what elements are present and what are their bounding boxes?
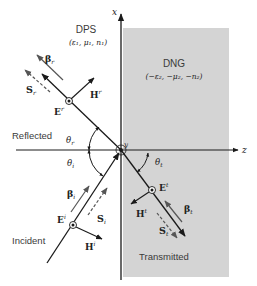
e-i-label: Ei bbox=[57, 213, 66, 225]
s-i-arrow bbox=[88, 188, 107, 215]
beta-r-label: βr bbox=[45, 53, 55, 65]
z-axis-label: z bbox=[241, 145, 247, 155]
beta-i-label: βi bbox=[67, 188, 75, 200]
e-r-dot bbox=[68, 100, 71, 103]
h-r-label: Hr bbox=[90, 88, 103, 100]
x-axis-label: x bbox=[112, 7, 117, 17]
e-i-dot bbox=[72, 224, 75, 227]
incident-label: Incident bbox=[12, 235, 46, 246]
transmitted-label: Transmitted bbox=[139, 251, 189, 262]
h-i-arrow bbox=[76, 227, 102, 239]
theta-r-arc bbox=[89, 127, 99, 150]
s-r-label: Sr bbox=[26, 84, 37, 96]
e-t-dot bbox=[151, 189, 154, 192]
h-i-label: Hi bbox=[85, 240, 96, 252]
reflection-diagram: x z y DPS (ε₁, μ₁, n₁) DNG (−ε₂, −μ₂, −n… bbox=[0, 0, 257, 286]
dps-params: (ε₁, μ₁, n₁) bbox=[69, 38, 107, 47]
incident-ray bbox=[47, 153, 119, 263]
e-r-label: Er bbox=[54, 105, 65, 117]
theta-i-label: θi bbox=[67, 158, 74, 169]
s-i-label: Si bbox=[97, 213, 106, 225]
theta-i-arc bbox=[89, 150, 103, 176]
theta-r-label: θr bbox=[66, 135, 75, 146]
dng-params: (−ε₂, −μ₂, −n₂) bbox=[146, 72, 203, 81]
dps-label: DPS bbox=[76, 24, 97, 35]
reflected-label: Reflected bbox=[12, 130, 52, 141]
dng-label: DNG bbox=[163, 58, 185, 69]
